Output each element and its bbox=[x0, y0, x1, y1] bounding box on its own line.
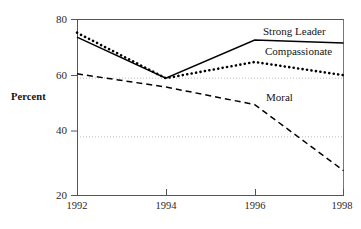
series-line-moral bbox=[77, 74, 344, 171]
x-tick-label-1996: 1996 bbox=[237, 200, 273, 211]
series-label-moral: Moral bbox=[265, 91, 294, 103]
y-tick-label-40: 40 bbox=[41, 124, 67, 136]
series-line-strong-leader bbox=[77, 37, 344, 78]
x-tick-label-1992: 1992 bbox=[59, 200, 95, 211]
y-tick-label-80: 80 bbox=[41, 13, 67, 25]
x-tick-label-1998: 1998 bbox=[324, 200, 360, 211]
series-label-compassionate: Compassionate bbox=[264, 45, 333, 57]
chart-figure: Percent 80 60 40 20 1992 1994 1996 1998 … bbox=[0, 0, 361, 229]
x-tick-label-1994: 1994 bbox=[148, 200, 184, 211]
series-label-strong-leader: Strong Leader bbox=[262, 25, 327, 37]
y-tick-label-60: 60 bbox=[41, 69, 67, 81]
y-axis-label: Percent bbox=[11, 91, 46, 102]
